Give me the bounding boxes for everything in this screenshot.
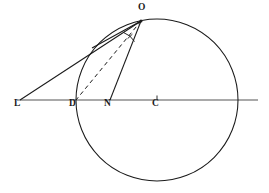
point-label-N: N — [104, 99, 111, 109]
segment-T-to-O — [92, 21, 141, 48]
point-dot-O — [140, 20, 143, 23]
geometry-canvas — [0, 0, 269, 193]
point-label-L: L — [14, 99, 21, 109]
point-label-D: D — [69, 99, 76, 109]
line-L-to-O — [20, 21, 141, 100]
geometry-figure: L D N C O — [0, 0, 269, 193]
point-label-O: O — [138, 3, 146, 13]
point-label-C: C — [152, 99, 159, 109]
